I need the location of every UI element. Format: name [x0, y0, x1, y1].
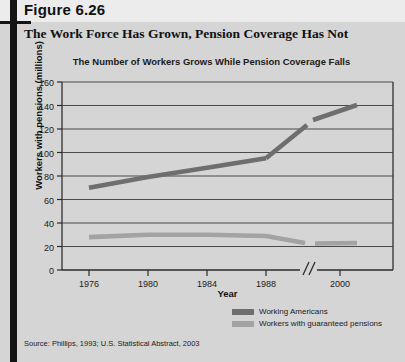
- legend-label: Workers with guaranteed pensions: [259, 319, 382, 328]
- line-chart-plot: 160 140 120 100 80 60 40 20 0: [0, 0, 405, 300]
- y-tick-labels: 160 140 120 100 80 60 40 20 0: [39, 78, 54, 276]
- figure-panel: Figure 6.26 The Work Force Has Grown, Pe…: [0, 0, 405, 362]
- y-tick-marks: [57, 82, 62, 270]
- axis-break-icon: [300, 262, 317, 275]
- legend-label: Working Americans: [259, 307, 328, 316]
- y-tick-label: 80: [44, 172, 54, 182]
- legend-swatch-working-americans: [232, 309, 254, 315]
- chart-legend: Working Americans Workers with guarantee…: [232, 306, 402, 330]
- source-note: Source: Phillips, 1993; U.S. Statistical…: [24, 339, 200, 348]
- chart-area: Workers with pensions (millions): [0, 0, 405, 362]
- y-tick-label: 160: [39, 78, 54, 88]
- y-tick-label: 100: [39, 149, 54, 159]
- y-tick-label: 60: [44, 196, 54, 206]
- legend-swatch-guaranteed-pensions: [232, 321, 254, 327]
- y-tick-label: 120: [39, 125, 54, 135]
- legend-item: Workers with guaranteed pensions: [232, 318, 402, 329]
- legend-item: Working Americans: [232, 306, 402, 317]
- series-guaranteed-pensions: [89, 235, 357, 244]
- y-tick-label: 20: [44, 243, 54, 253]
- x-axis-title: Year: [60, 288, 395, 299]
- series-working-americans: [89, 105, 357, 188]
- y-tick-label: 140: [39, 102, 54, 112]
- y-tick-label: 40: [44, 219, 54, 229]
- y-tick-label: 0: [49, 266, 54, 276]
